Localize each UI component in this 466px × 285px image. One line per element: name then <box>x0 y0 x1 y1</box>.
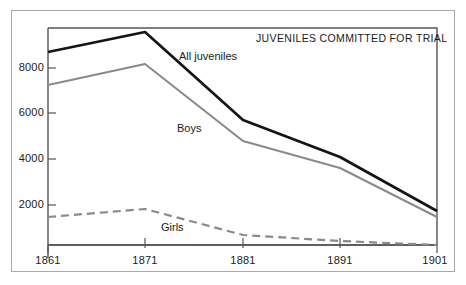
x-tick-label-1891: 1891 <box>318 254 362 266</box>
y-tick-label-4000: 4000 <box>8 152 44 164</box>
x-tick-label-1861: 1861 <box>26 254 70 266</box>
series-label-girls: Girls <box>161 221 184 233</box>
y-tick-label-2000: 2000 <box>8 198 44 210</box>
series-label-boys: Boys <box>177 122 201 134</box>
chart-figure: JUVENILES COMMITTED FOR TRIAL 8000 6000 … <box>0 0 466 285</box>
y-tick-label-6000: 6000 <box>8 106 44 118</box>
series-line-all-juveniles <box>48 32 437 211</box>
x-tick-label-1881: 1881 <box>221 254 265 266</box>
x-tick-label-1901: 1901 <box>413 254 457 266</box>
x-tick-label-1871: 1871 <box>123 254 167 266</box>
series-line-boys <box>48 64 437 217</box>
chart-title: JUVENILES COMMITTED FOR TRIAL <box>256 32 447 44</box>
series-label-all-juveniles: All juveniles <box>179 50 237 62</box>
y-axis-ticks <box>48 68 56 205</box>
y-tick-label-8000: 8000 <box>8 61 44 73</box>
